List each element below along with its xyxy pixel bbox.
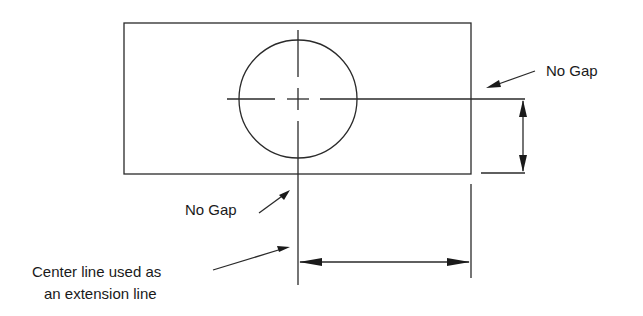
label-no-gap-right: No Gap bbox=[546, 62, 598, 79]
vertical-dim-arrow-down-icon bbox=[519, 155, 527, 172]
horizontal-dim-arrow-right-icon bbox=[447, 258, 470, 266]
label-center-line-2: an extension line bbox=[44, 285, 157, 302]
label-no-gap-bottom: No Gap bbox=[185, 201, 237, 218]
leader-arrow-center-line-icon bbox=[277, 246, 290, 252]
leader-center-line bbox=[213, 248, 285, 270]
leader-arrow-no-gap-right-icon bbox=[486, 80, 501, 88]
vertical-dim-arrow-up-icon bbox=[519, 100, 527, 117]
label-center-line-1: Center line used as bbox=[32, 263, 161, 280]
horizontal-dim-arrow-left-icon bbox=[299, 258, 322, 266]
leader-arrow-no-gap-bottom-icon bbox=[279, 190, 290, 200]
technical-drawing: No Gap No Gap Center line used as an ext… bbox=[0, 0, 643, 316]
